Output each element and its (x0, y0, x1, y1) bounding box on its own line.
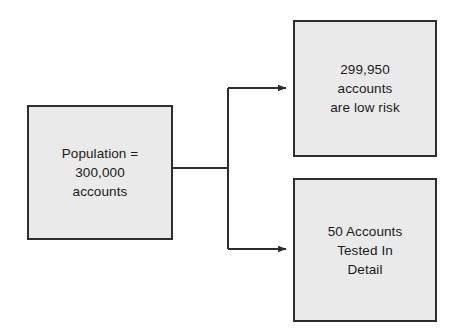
diagram-canvas: Population = 300,000 accounts 299,950 ac… (0, 0, 456, 333)
node-tested: 50 Accounts Tested In Detail (293, 178, 437, 322)
node-population-label: Population = 300,000 accounts (58, 144, 143, 201)
node-population: Population = 300,000 accounts (27, 105, 173, 240)
node-tested-label: 50 Accounts Tested In Detail (324, 222, 407, 279)
connector-population-trunk (173, 88, 228, 249)
node-low-risk-label: 299,950 accounts are low risk (326, 60, 403, 117)
node-low-risk: 299,950 accounts are low risk (293, 20, 437, 157)
